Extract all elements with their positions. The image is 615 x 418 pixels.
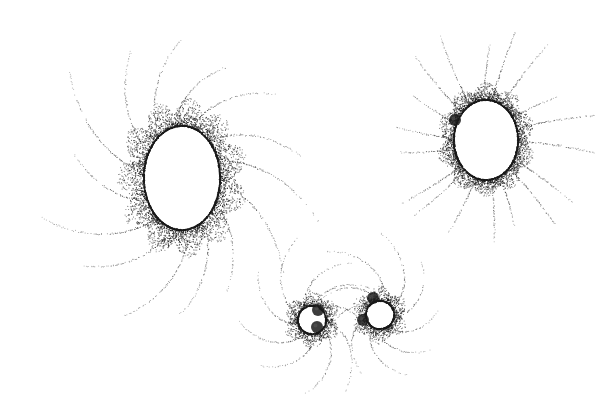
stipple-illustration — [0, 0, 615, 418]
background — [0, 0, 615, 418]
